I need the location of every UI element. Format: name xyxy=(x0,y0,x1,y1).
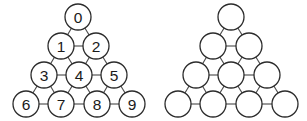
unlabeled-triangle-graph xyxy=(0,0,307,121)
graph-edge xyxy=(274,86,278,93)
node-circle xyxy=(218,62,244,88)
graph-edge xyxy=(238,28,242,35)
graph-node xyxy=(200,91,226,117)
right-graph-unlabeled xyxy=(0,0,307,121)
graph-edge xyxy=(220,86,224,93)
graph-edge xyxy=(220,57,224,64)
node-circle xyxy=(272,91,298,117)
graph-node xyxy=(236,91,262,117)
node-circle xyxy=(254,62,280,88)
node-group xyxy=(165,4,298,117)
graph-edge xyxy=(238,86,242,93)
graph-node xyxy=(254,62,280,88)
graph-edge xyxy=(203,86,207,93)
node-circle xyxy=(236,91,262,117)
graph-node xyxy=(183,62,209,88)
node-circle xyxy=(236,33,262,59)
graph-edge xyxy=(238,57,242,64)
graph-node xyxy=(218,62,244,88)
graph-node xyxy=(218,4,244,30)
node-circle xyxy=(183,62,209,88)
node-circle xyxy=(165,91,191,117)
graph-node xyxy=(200,33,226,59)
graph-node xyxy=(165,91,191,117)
graph-edge xyxy=(220,28,224,35)
node-circle xyxy=(218,4,244,30)
graph-edge xyxy=(256,57,260,64)
triangular-graph-figure-pair: 0123456789 xyxy=(0,0,307,121)
graph-node xyxy=(236,33,262,59)
graph-edge xyxy=(256,86,260,93)
node-circle xyxy=(200,91,226,117)
node-circle xyxy=(200,33,226,59)
graph-edge xyxy=(203,57,207,64)
graph-edge xyxy=(185,86,189,93)
graph-node xyxy=(272,91,298,117)
